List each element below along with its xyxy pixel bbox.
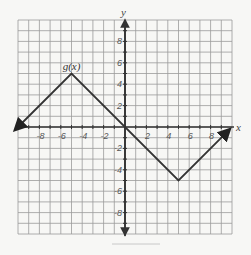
x-tick-label: 8 [209, 131, 214, 141]
y-tick-label: -8 [114, 208, 122, 218]
function-label: g(x) [63, 60, 81, 73]
y-tick-label: -4 [114, 165, 122, 175]
y-tick-label: 4 [117, 79, 122, 89]
y-tick-label: -2 [114, 143, 122, 153]
x-axis-label: x [235, 121, 241, 133]
x-tick-label: 2 [144, 131, 150, 141]
x-tick-label: -2 [101, 131, 109, 141]
y-tick-label: 8 [117, 36, 122, 46]
function-graph: g(x) [18, 60, 227, 181]
x-tick-label: 4 [166, 131, 171, 141]
x-tick-label: -4 [79, 131, 87, 141]
x-tick-label: -6 [58, 131, 66, 141]
x-tick-label: -8 [36, 131, 44, 141]
y-tick-label: 6 [117, 58, 122, 68]
y-axis-label: y [120, 6, 126, 18]
x-tick-label: 6 [188, 131, 193, 141]
y-tick-label: -6 [114, 186, 122, 196]
coordinate-plane: -8-6-4-224688642-2-4-6-8 g(x) x y [0, 0, 251, 255]
y-tick-label: 2 [116, 101, 122, 111]
